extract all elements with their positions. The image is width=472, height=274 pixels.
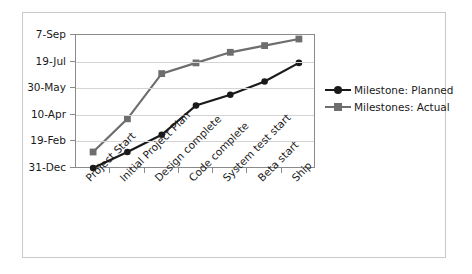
legend-marker-actual-icon [325, 101, 351, 113]
x-tick-mark [144, 168, 145, 173]
y-tick-label: 19-Feb [23, 135, 66, 146]
y-tick-label: 19-Jul [23, 56, 66, 67]
data-point-marker [227, 49, 234, 56]
legend-item-actual: Milestones: Actual [325, 98, 457, 115]
y-tick-label: 30-May [23, 82, 66, 93]
y-tick-mark [70, 140, 75, 141]
legend-item-planned: Milestone: Planned [325, 81, 457, 98]
y-tick-mark [70, 34, 75, 35]
y-tick-mark [70, 61, 75, 62]
x-tick-mark [109, 168, 110, 173]
data-point-marker [296, 36, 303, 43]
x-tick-mark [246, 168, 247, 173]
legend-label-actual: Milestones: Actual [351, 101, 450, 113]
data-point-marker [193, 102, 200, 109]
legend-label-planned: Milestone: Planned [351, 84, 453, 96]
data-point-marker [90, 149, 97, 156]
y-tick-mark [70, 87, 75, 88]
chart-frame: 7-Sep19-Jul30-May10-Apr19-Feb31-Dec Proj… [22, 12, 446, 258]
gridline [76, 62, 314, 63]
y-tick-label: 7-Sep [23, 29, 66, 40]
y-tick-mark [70, 114, 75, 115]
chart-legend: Milestone: Planned Milestones: Actual [325, 81, 457, 115]
data-point-marker [158, 70, 165, 77]
x-tick-mark [212, 168, 213, 173]
data-point-marker [124, 115, 131, 122]
y-tick-label: 31-Dec [23, 162, 66, 173]
y-tick-label: 10-Apr [23, 109, 66, 120]
x-tick-mark [281, 168, 282, 173]
x-tick-mark [178, 168, 179, 173]
legend-marker-planned-icon [325, 84, 351, 96]
data-point-marker [261, 78, 268, 85]
gridline [76, 88, 314, 89]
y-tick-mark [70, 167, 75, 168]
data-point-marker [261, 42, 268, 49]
data-point-marker [227, 92, 234, 99]
